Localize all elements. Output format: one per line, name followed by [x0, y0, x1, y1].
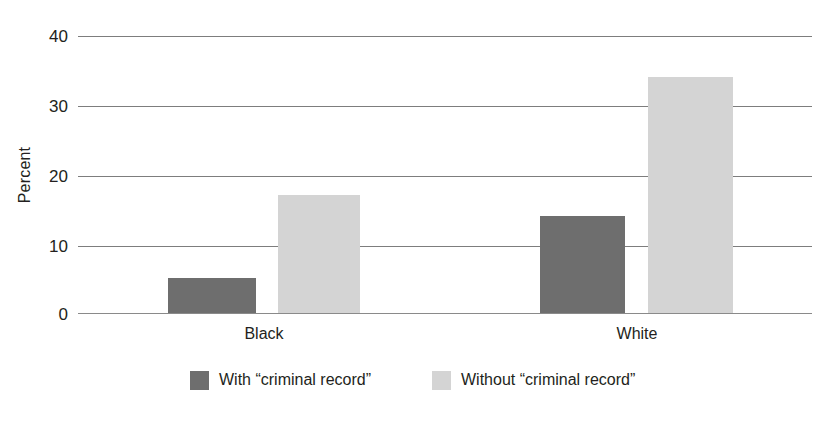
bar-black-with-criminal-record	[168, 278, 256, 313]
bar-chart: Percent 40 30 20 10 0 Black White With “…	[0, 0, 830, 425]
bar-white-without-criminal-record	[648, 77, 733, 313]
bar-white-with-criminal-record	[540, 216, 625, 313]
plot-area	[0, 0, 830, 425]
category-label-white: White	[587, 326, 687, 342]
legend: With “criminal record” Without “criminal…	[0, 368, 830, 398]
legend-swatch-without-criminal-record	[432, 371, 451, 390]
legend-item-with-criminal-record: With “criminal record”	[190, 368, 371, 392]
bar-black-without-criminal-record	[278, 195, 360, 313]
legend-label-without-criminal-record: Without “criminal record”	[461, 372, 635, 388]
legend-item-without-criminal-record: Without “criminal record”	[432, 368, 635, 392]
category-label-black: Black	[214, 326, 314, 342]
legend-swatch-with-criminal-record	[190, 371, 209, 390]
legend-label-with-criminal-record: With “criminal record”	[219, 372, 371, 388]
